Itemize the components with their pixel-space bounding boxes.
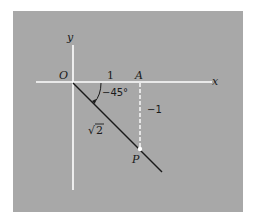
hypotenuse-radical: √ bbox=[88, 124, 96, 137]
angle-label: −45° bbox=[102, 87, 128, 98]
x-axis-label: x bbox=[212, 75, 219, 88]
point-p-label: P bbox=[131, 153, 140, 166]
point-a-label: A bbox=[134, 69, 143, 82]
origin-label: O bbox=[59, 69, 68, 82]
tick-one-label: 1 bbox=[107, 69, 114, 82]
y-axis-label: y bbox=[66, 31, 74, 44]
coordinate-diagram: y x O 1 A −45° −1 √ 2 P bbox=[0, 0, 260, 223]
hypotenuse-value: 2 bbox=[96, 124, 103, 137]
point-p-marker bbox=[138, 147, 142, 151]
vertical-length-label: −1 bbox=[147, 104, 162, 115]
